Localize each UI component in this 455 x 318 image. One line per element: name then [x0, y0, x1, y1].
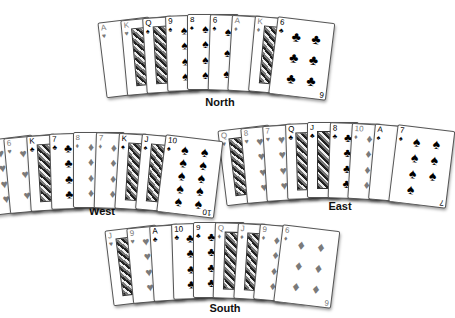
suit-pip-icon: ♣ [64, 142, 72, 154]
card-rank: 8 [76, 134, 80, 142]
hand-east: Q♥8♥♥♥♥♥♥♥♥♥7♥♥♥♥♥♥♥♥Q♣J♣8♣♣♣♣♣♣♣♣♣10♦♦♦… [245, 122, 425, 202]
suit-pip-icon: ♦ [312, 283, 321, 296]
suit-pip-icon: ♠ [406, 183, 415, 196]
suit-diamond-icon: ♦ [261, 234, 265, 241]
suit-pip-icon: ♥ [278, 133, 286, 145]
suit-pip-icon: ♠ [202, 23, 208, 35]
suit-pip-icon: ♠ [412, 135, 421, 148]
playing-card[interactable]: 7♠♠♠♠♠♠♠♠7 [388, 124, 455, 208]
suit-diamond-icon: ♦ [354, 133, 358, 140]
suit-diamond-icon: ♦ [284, 235, 288, 242]
suit-diamond-icon: ♦ [218, 232, 222, 239]
suit-pip-icon: ♣ [308, 53, 319, 66]
suit-diamond-icon: ♦ [98, 142, 102, 149]
suit-club-icon: ♣ [53, 144, 58, 151]
suit-pip-icon: ♠ [428, 169, 437, 182]
suit-pip-icon: ♣ [289, 51, 300, 64]
suit-club-icon: ♣ [196, 232, 201, 239]
suit-spade-icon: ♠ [168, 26, 172, 33]
suit-pip-icon: ♦ [88, 156, 94, 168]
suit-pip-icon: ♣ [311, 32, 322, 45]
suit-club-icon: ♣ [279, 27, 284, 35]
card-rank: 7 [52, 136, 57, 144]
playing-card[interactable]: 6♦♦♦♦♦♦♦6 [273, 224, 340, 308]
suit-pip-icon: ♦ [295, 259, 304, 272]
suit-pip-icon: ♠ [202, 38, 208, 50]
card-rank: Q [288, 126, 294, 134]
suit-pip-icon: ♦ [297, 238, 306, 251]
card-rank: Q [145, 19, 152, 27]
card-pips: ♠♠♠♠♠♠♠ [400, 132, 448, 200]
playing-card[interactable]: 6♣♣♣♣♣♣♣6 [268, 16, 335, 100]
suit-pip-icon: ♠ [408, 167, 417, 180]
suit-club-icon: ♣ [310, 132, 315, 139]
suit-diamond-icon: ♦ [234, 25, 238, 32]
card-rank: 7 [98, 134, 103, 142]
hand-west: 10♥♥♥♥♥♥♥♥♥6♥♥♥♥♥♥♥K♣7♣♣♣♣♣♣♣♣8♦♦♦♦♦♦♦♦♦… [8, 132, 193, 212]
card-pips: ♠♠♠♠♠♠♠♠♠♠ [168, 142, 216, 210]
suit-club-icon: ♣ [152, 236, 157, 243]
card-rank-corner: 6 [319, 90, 324, 98]
suit-club-icon: ♣ [332, 132, 337, 139]
card-rank-corner: 7 [439, 198, 444, 206]
card-rank: 8 [190, 16, 194, 24]
seat-label-north: North [205, 96, 234, 108]
suit-pip-icon: ♠ [180, 24, 187, 36]
suit-pip-icon: ♦ [366, 133, 373, 145]
suit-diamond-icon: ♦ [76, 142, 80, 149]
seat-label-east: East [328, 200, 351, 212]
suit-pip-icon: ♠ [430, 154, 439, 167]
suit-pip-icon: ♣ [286, 72, 297, 85]
suit-pip-icon: ♦ [110, 157, 116, 169]
suit-diamond-icon: ♦ [239, 233, 243, 240]
suit-spade-icon: ♠ [212, 24, 216, 31]
card-rank-corner: 6 [324, 298, 329, 306]
suit-spade-icon: ♠ [146, 28, 150, 35]
card-rank: 8 [332, 124, 337, 132]
card-rank: 9 [168, 18, 173, 26]
card-rank: J [310, 124, 314, 132]
suit-pip-icon: ♦ [88, 172, 94, 184]
suit-club-icon: ♣ [30, 146, 35, 153]
card-rank-corner: 10 [202, 207, 212, 216]
suit-club-icon: ♣ [174, 234, 179, 241]
suit-heart-icon: ♥ [244, 138, 249, 145]
suit-spade-icon: ♠ [167, 145, 172, 152]
card-rank: Q [218, 224, 224, 232]
suit-spade-icon: ♠ [399, 135, 404, 142]
suit-diamond-icon: ♦ [256, 26, 260, 33]
card-pips: ♦♦♦♦♦♦ [285, 232, 333, 300]
hand-south: J♥9♥♥♥♥♥♥♥♥♥A♣♣10♣♣♣♣♣♣♣♣♣9♣♣♣♣♣♣♣♣♣Q♦J♦… [132, 222, 310, 302]
card-pips: ♣♣♣♣♣♣ [280, 24, 328, 92]
suit-pip-icon: ♦ [292, 280, 301, 293]
suit-heart-icon: ♥ [124, 30, 129, 37]
suit-heart-icon: ♥ [109, 240, 114, 247]
seat-label-south: South [209, 302, 240, 314]
suit-pip-icon: ♠ [174, 194, 183, 207]
suit-pip-icon: ♣ [291, 30, 302, 43]
suit-pip-icon: ♣ [306, 75, 317, 88]
suit-pip-icon: ♦ [110, 142, 116, 154]
suit-spade-icon: ♠ [143, 144, 147, 151]
hand-north: A♥♥K♥Q♠9♠♠♠♠♠♠♠♠♠8♠♠♠♠♠♠♠♠♠6♠♠♠♠♠♠♠A♦♦K♦… [125, 14, 305, 94]
suit-spade-icon: ♠ [376, 134, 380, 141]
suit-pip-icon: ♠ [410, 151, 419, 164]
card-rank: 6 [212, 16, 217, 24]
suit-spade-icon: ♠ [190, 24, 194, 31]
suit-pip-icon: ♦ [317, 240, 326, 253]
suit-pip-icon: ♠ [432, 138, 441, 151]
card-rank: 9 [196, 224, 200, 232]
suit-pip-icon: ♠ [194, 197, 203, 210]
suit-heart-icon: ♥ [266, 136, 271, 143]
suit-pip-icon: ♦ [314, 262, 323, 275]
suit-spade-icon: ♠ [121, 143, 125, 150]
suit-heart-icon: ♥ [130, 238, 135, 245]
suit-heart-icon: ♥ [102, 32, 107, 39]
suit-club-icon: ♣ [288, 134, 293, 141]
card-rank: J [240, 225, 244, 233]
suit-pip-icon: ♦ [88, 141, 94, 153]
playing-card[interactable]: 10♠♠♠♠♠♠♠♠♠♠♠10 [156, 134, 223, 218]
suit-heart-icon: ♥ [7, 148, 12, 155]
